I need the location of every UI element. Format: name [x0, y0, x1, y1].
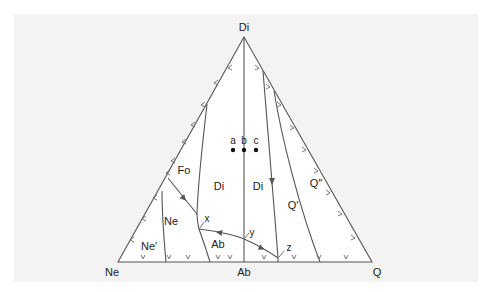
point-label-a: a — [230, 135, 236, 146]
vertex-label-q: Q — [373, 266, 382, 278]
field-label-q-prime: Q′ — [288, 199, 299, 211]
point-c — [254, 148, 258, 152]
ternary-diagram: Di Ne Ab Q a b c x y z Fo Di Di Ne Ne′ A… — [0, 0, 489, 292]
point-label-x: x — [205, 213, 210, 224]
point-label-z: z — [287, 242, 292, 253]
vertex-label-ab: Ab — [237, 266, 250, 278]
field-label-q-double-prime: Q″ — [310, 177, 323, 189]
field-label-di-right: Di — [253, 180, 263, 192]
vertex-label-ne: Ne — [105, 266, 119, 278]
field-label-fo: Fo — [178, 164, 191, 176]
vertex-label-di: Di — [239, 21, 249, 33]
point-label-c: c — [254, 135, 259, 146]
point-label-y: y — [250, 227, 255, 238]
point-label-b: b — [241, 135, 247, 146]
field-label-ab: Ab — [211, 238, 224, 250]
field-label-di-left: Di — [214, 180, 224, 192]
field-label-ne: Ne — [164, 215, 178, 227]
point-b — [242, 148, 246, 152]
point-a — [231, 148, 235, 152]
field-label-ne-prime: Ne′ — [141, 240, 157, 252]
